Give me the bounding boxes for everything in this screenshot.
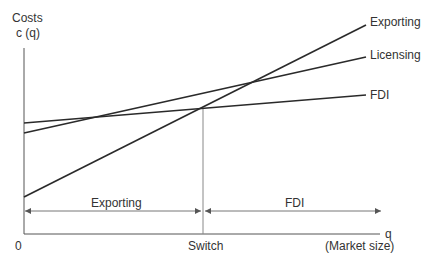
y-axis-label-costs: Costs (12, 11, 43, 25)
exporting-line-label: Exporting (370, 15, 421, 29)
fdi-line-label: FDI (370, 88, 389, 102)
market-size-label: (Market size) (325, 239, 394, 253)
exporting-line (24, 25, 366, 197)
switch-label: Switch (188, 239, 223, 253)
licensing-line-label: Licensing (370, 48, 421, 62)
x-axis-label-q: q (385, 227, 392, 241)
y-axis-label-cq: c (q) (16, 26, 40, 40)
fdi-region-label: FDI (285, 196, 304, 210)
origin-label: 0 (15, 239, 22, 253)
exporting-region-label: Exporting (91, 196, 142, 210)
cost-chart: Costs c (q) Exporting Licensing FDI Expo… (0, 0, 423, 260)
licensing-line (24, 57, 366, 133)
fdi-line (24, 95, 366, 123)
